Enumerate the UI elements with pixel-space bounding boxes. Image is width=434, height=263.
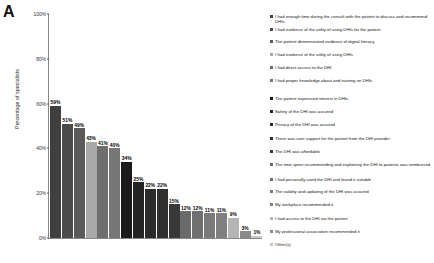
- bar[interactable]: 12%: [180, 206, 191, 238]
- legend-swatch-icon: [270, 110, 273, 113]
- legend-label: My workplace recommended it: [275, 202, 434, 207]
- legend-label: Privacy of the DHI was assured: [275, 122, 434, 127]
- bar-rect[interactable]: [240, 231, 251, 238]
- bar[interactable]: 1%: [251, 230, 262, 238]
- chart-legend: I had enough time during the consult wit…: [268, 12, 434, 260]
- legend-item[interactable]: I had evidence of the utility of using D…: [270, 27, 434, 32]
- bar-rect[interactable]: [86, 142, 97, 238]
- bar-rect[interactable]: [50, 106, 61, 238]
- legend-label: The patient expressed interest in DHIs: [275, 96, 434, 101]
- legend-label: My professional association recommended …: [275, 229, 434, 234]
- legend-label: I had enough time during the consult wit…: [275, 14, 434, 24]
- bar[interactable]: 51%: [62, 118, 73, 238]
- bar[interactable]: 49%: [74, 123, 85, 238]
- legend-swatch-icon: [270, 79, 273, 82]
- bar[interactable]: 40%: [109, 143, 120, 238]
- bar[interactable]: 9%: [228, 212, 239, 238]
- legend-item[interactable]: The patient expressed interest in DHIs: [270, 96, 434, 101]
- legend-label: Other(s): [275, 242, 434, 247]
- legend-item[interactable]: Privacy of the DHI was assured: [270, 122, 434, 127]
- bar-rect[interactable]: [157, 189, 168, 238]
- legend-swatch-icon: [270, 40, 273, 43]
- legend-item[interactable]: My workplace recommended it: [270, 202, 434, 207]
- bar[interactable]: 12%: [192, 206, 203, 238]
- bar-rect[interactable]: [228, 218, 239, 238]
- bar-value-label: 41%: [98, 141, 108, 146]
- legend-swatch-icon: [270, 217, 273, 220]
- legend-label: Safety of the DHI was assured: [275, 109, 434, 114]
- legend-label: I had evidence of the utility of using D…: [275, 52, 434, 57]
- legend-swatch-icon: [270, 53, 273, 56]
- legend-item[interactable]: I had enough time during the consult wit…: [270, 14, 434, 24]
- bar-rect[interactable]: [145, 189, 156, 238]
- bar-value-label: 22%: [157, 183, 167, 188]
- legend-swatch-icon: [270, 97, 273, 100]
- bar-value-label: 40%: [110, 143, 120, 148]
- bar-rect[interactable]: [109, 148, 120, 238]
- bar-value-label: 11%: [217, 208, 227, 213]
- bar-rect[interactable]: [204, 213, 215, 238]
- bar[interactable]: 11%: [204, 208, 215, 238]
- y-axis-label: Percentage of specialists: [14, 49, 20, 149]
- legend-item[interactable]: My professional association recommended …: [270, 229, 434, 234]
- bar[interactable]: 3%: [240, 226, 251, 238]
- bar-value-label: 1%: [253, 230, 260, 235]
- legend-item[interactable]: The time spent recommending and explaini…: [270, 162, 434, 167]
- bar-value-label: 9%: [230, 212, 237, 217]
- legend-swatch-icon: [270, 137, 273, 140]
- bar-value-label: 43%: [86, 136, 96, 141]
- legend-item[interactable]: I had access to the DHI via the patient: [270, 216, 434, 221]
- bar-rect[interactable]: [169, 204, 180, 238]
- bar[interactable]: 25%: [133, 177, 144, 239]
- bar[interactable]: 41%: [97, 141, 108, 238]
- bar-rect[interactable]: [180, 211, 191, 238]
- legend-item[interactable]: I had personally used the DHI and found …: [270, 177, 434, 182]
- x-axis-line: [48, 238, 262, 239]
- legend-item[interactable]: I had direct access to the DHI: [270, 65, 434, 70]
- legend-item[interactable]: Other(s): [270, 242, 434, 247]
- legend-label: There was user support for the patient f…: [275, 136, 434, 141]
- legend-label: I had personally used the DHI and found …: [275, 177, 434, 182]
- bar-value-label: 22%: [145, 183, 155, 188]
- legend-item[interactable]: The DHI was affordable: [270, 149, 434, 154]
- y-axis-tick-label: 60%: [36, 101, 46, 106]
- bar-rect[interactable]: [97, 146, 108, 238]
- bar-value-label: 59%: [51, 100, 61, 105]
- legend-item[interactable]: I had evidence of the utility of using D…: [270, 52, 434, 57]
- bar[interactable]: 22%: [157, 183, 168, 238]
- legend-item[interactable]: Safety of the DHI was assured: [270, 109, 434, 114]
- bar-value-label: 15%: [169, 199, 179, 204]
- bar-value-label: 49%: [74, 123, 84, 128]
- bar-chart: Percentage of specialists 0%20%40%60%80%…: [0, 0, 268, 263]
- bar-value-label: 12%: [181, 206, 191, 211]
- y-axis-tick-label: 0%: [39, 236, 46, 241]
- y-axis-tick-mark: [47, 58, 49, 59]
- bar-rect[interactable]: [133, 182, 144, 238]
- y-axis-ticks: 0%20%40%60%80%100%: [22, 14, 46, 238]
- legend-swatch-icon: [270, 243, 273, 246]
- legend-item[interactable]: There was user support for the patient f…: [270, 136, 434, 141]
- legend-label: The time spent recommending and explaini…: [275, 162, 434, 167]
- bar[interactable]: 15%: [169, 199, 180, 238]
- legend-item[interactable]: I had proper knowledge about and trainin…: [270, 78, 434, 83]
- bar[interactable]: 59%: [50, 100, 61, 238]
- bar-rect[interactable]: [74, 128, 85, 238]
- legend-swatch-icon: [270, 190, 273, 193]
- legend-item[interactable]: The patient demonstrated evidence of dig…: [270, 39, 434, 44]
- legend-swatch-icon: [270, 178, 273, 181]
- bar-rect[interactable]: [62, 124, 73, 238]
- bar-rect[interactable]: [216, 213, 227, 238]
- legend-swatch-icon: [270, 230, 273, 233]
- bar-rect[interactable]: [192, 211, 203, 238]
- bar[interactable]: 22%: [145, 183, 156, 238]
- legend-swatch-icon: [270, 150, 273, 153]
- bar[interactable]: 43%: [86, 136, 97, 238]
- legend-item[interactable]: The validity and updating of the DHI was…: [270, 189, 434, 194]
- y-axis-tick-label: 40%: [36, 146, 46, 151]
- y-axis-tick-label: 80%: [36, 56, 46, 61]
- bar-value-label: 11%: [205, 208, 215, 213]
- bar[interactable]: 11%: [216, 208, 227, 238]
- bar[interactable]: 34%: [121, 156, 132, 238]
- bar-rect[interactable]: [121, 162, 132, 238]
- bar-rect[interactable]: [251, 236, 262, 238]
